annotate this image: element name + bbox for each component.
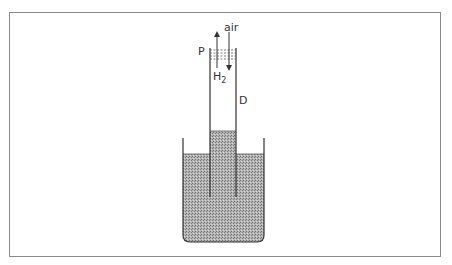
label-h2: H2 [213, 70, 226, 85]
plug-p [210, 50, 236, 59]
liquid [183, 131, 264, 242]
apparatus-diagram: air P H2 D [0, 0, 452, 265]
label-air: air [224, 21, 239, 34]
label-d: D [239, 94, 247, 107]
label-p: P [198, 45, 205, 58]
